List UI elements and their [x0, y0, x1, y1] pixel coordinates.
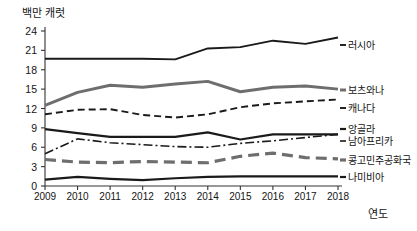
series-line: [45, 81, 338, 105]
series-line: [45, 129, 338, 139]
y-tick-label: 12: [15, 104, 37, 114]
legend-item-label: 보츠와나: [348, 85, 384, 96]
y-tick-label: 18: [15, 65, 37, 75]
legend-item-label: 캐나다: [348, 103, 375, 114]
series-line: [45, 134, 338, 153]
series-line: [45, 99, 338, 117]
legend-item-label: 콩고민주공화국: [348, 155, 411, 166]
line-chart: 백만 캐럿 03691215182124 2009201020112012201…: [0, 0, 417, 231]
x-tick-label: 2018: [318, 192, 358, 202]
legend-item-label: 남아프리카: [348, 136, 393, 147]
series-line: [45, 176, 338, 180]
y-tick-label: 21: [15, 45, 37, 55]
series-line: [45, 153, 338, 163]
x-axis-title: 연도: [368, 205, 388, 221]
y-tick-label: 3: [15, 162, 37, 172]
y-tick-label: 15: [15, 84, 37, 94]
legend-item-label: 앙골라: [348, 124, 375, 135]
legend-item-label: 나미비아: [348, 172, 384, 183]
y-tick-label: 0: [15, 181, 37, 191]
legend-item-label: 러시아: [348, 40, 375, 51]
y-tick-label: 6: [15, 142, 37, 152]
y-tick-label: 24: [15, 26, 37, 36]
y-tick-label: 9: [15, 123, 37, 133]
series-line: [45, 37, 338, 59]
